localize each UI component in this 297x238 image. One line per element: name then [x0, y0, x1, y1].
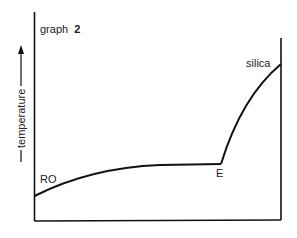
y-axis-label: temperature	[15, 89, 27, 148]
liquidus-curve-silica	[221, 64, 281, 164]
graph-title-number: 2	[74, 23, 80, 35]
graph-title-prefix: graph	[40, 23, 68, 35]
liquidus-curve-ro	[35, 164, 222, 196]
bottom-axis	[35, 220, 282, 221]
graph-title: graph 2	[40, 23, 80, 35]
label-silica: silica	[246, 57, 271, 69]
arrow-up-icon	[18, 45, 24, 54]
label-eutectic: E	[216, 167, 223, 179]
phase-diagram: temperature graph 2 RO E silica	[0, 0, 297, 238]
label-ro: RO	[40, 173, 57, 185]
